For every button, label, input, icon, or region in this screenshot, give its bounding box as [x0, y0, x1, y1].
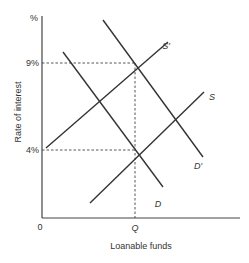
y-axis-label: Rate of interest — [13, 81, 23, 143]
supply-curve-s-prime — [46, 42, 168, 148]
x-axis-label: Loanable funds — [110, 241, 172, 251]
tick-q: Q — [131, 223, 138, 233]
y-unit-label: % — [30, 13, 38, 23]
curve-label-d: D — [155, 199, 162, 209]
supply-curve-s — [90, 92, 204, 203]
curve-label-d-prime: D′ — [194, 161, 202, 171]
curve-label-s-prime: S′ — [162, 41, 170, 51]
tick-9pct: 9% — [26, 58, 39, 68]
loanable-funds-diagram: % 9% 4% 0 Q Loanable funds Rate of inter… — [0, 0, 249, 263]
curve-label-s: S — [209, 92, 215, 102]
tick-4pct: 4% — [26, 145, 39, 155]
origin-label: 0 — [37, 222, 42, 232]
demand-curve-d-prime — [103, 20, 203, 157]
